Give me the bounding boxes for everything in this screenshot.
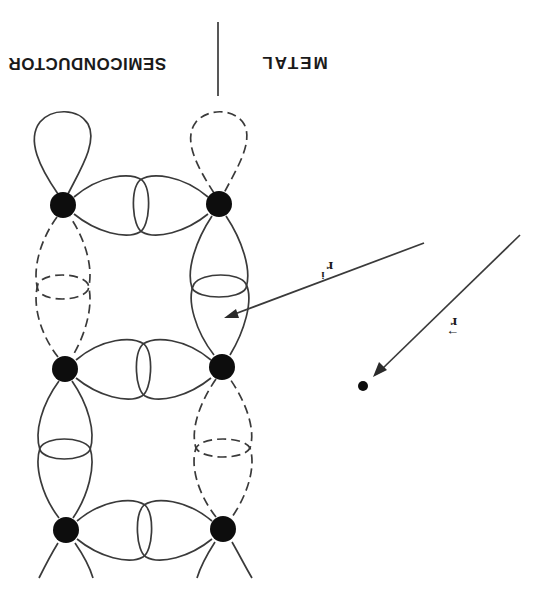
atom-top-left	[50, 192, 76, 218]
vector-ri-symbol: r	[326, 259, 333, 275]
lobe-left-m-up	[36, 275, 90, 357]
vector-r-arrowhead-icon	[373, 362, 387, 377]
lobe-right-b-up	[194, 439, 252, 517]
atom-bottom-right	[210, 516, 236, 542]
vector-r-accent-arrow: →	[447, 327, 460, 342]
semiconductor-metal-interface-diagram: SEMICONDUCTOR METAL	[0, 0, 542, 602]
vector-ri: r i	[224, 243, 424, 318]
atom-top-right	[206, 191, 232, 217]
lobe-left-b-up	[38, 439, 92, 518]
vector-r-shaft	[380, 235, 520, 371]
lobe-left-t-down	[36, 217, 90, 299]
metal-point-dot	[358, 381, 368, 391]
atom-bottom-left	[53, 517, 79, 543]
vector-ri-subscript: i	[321, 270, 324, 282]
lobe-right-t-down	[190, 216, 248, 297]
stub-br-2	[232, 542, 252, 578]
orbitals	[34, 112, 252, 578]
lobe-right-m-down	[194, 379, 252, 457]
metal-label: METAL	[260, 53, 327, 72]
stub-bl-1	[39, 543, 58, 578]
atom-middle-right	[209, 354, 235, 380]
vector-ri-arrowhead-icon	[224, 309, 239, 318]
vector-ri-shaft	[232, 243, 424, 315]
semiconductor-label: SEMICONDUCTOR	[8, 54, 166, 73]
lobe-right-m-up	[191, 275, 249, 355]
lobe-top-right-up	[191, 112, 247, 193]
lobe-top-left-up	[34, 112, 91, 194]
atoms	[50, 191, 236, 543]
lobe-left-m-down	[38, 381, 92, 459]
atom-middle-left	[52, 356, 78, 382]
